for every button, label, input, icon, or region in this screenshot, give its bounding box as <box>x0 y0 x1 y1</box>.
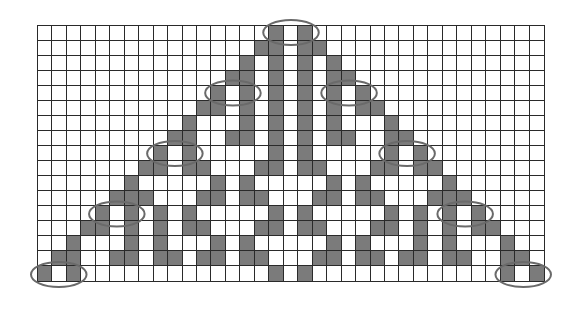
empty-cell <box>255 236 269 251</box>
filled-cell <box>154 251 168 266</box>
empty-cell <box>385 56 399 71</box>
empty-cell <box>183 191 197 206</box>
filled-cell <box>298 71 312 86</box>
empty-cell <box>81 206 95 221</box>
empty-cell <box>38 176 52 191</box>
empty-cell <box>52 71 66 86</box>
empty-cell <box>356 41 370 56</box>
filled-cell <box>183 161 197 176</box>
empty-cell <box>168 56 182 71</box>
empty-cell <box>110 56 124 71</box>
empty-cell <box>486 266 500 281</box>
filled-cell <box>313 41 327 56</box>
empty-cell <box>255 206 269 221</box>
empty-cell <box>211 41 225 56</box>
empty-cell <box>168 146 182 161</box>
filled-cell <box>269 26 283 41</box>
empty-cell <box>515 26 529 41</box>
filled-cell <box>327 176 341 191</box>
filled-cell <box>81 221 95 236</box>
filled-cell <box>139 191 153 206</box>
empty-cell <box>67 101 81 116</box>
empty-cell <box>52 266 66 281</box>
empty-cell <box>284 176 298 191</box>
empty-cell <box>67 56 81 71</box>
empty-cell <box>515 161 529 176</box>
empty-cell <box>428 251 442 266</box>
empty-cell <box>255 56 269 71</box>
filled-cell <box>125 221 139 236</box>
empty-cell <box>226 266 240 281</box>
empty-cell <box>284 161 298 176</box>
empty-cell <box>67 146 81 161</box>
empty-cell <box>211 26 225 41</box>
filled-cell <box>168 251 182 266</box>
empty-cell <box>52 86 66 101</box>
empty-cell <box>110 101 124 116</box>
filled-cell <box>472 206 486 221</box>
filled-cell <box>414 236 428 251</box>
empty-cell <box>327 221 341 236</box>
filled-cell <box>255 191 269 206</box>
empty-cell <box>168 116 182 131</box>
empty-cell <box>52 41 66 56</box>
filled-cell <box>313 221 327 236</box>
empty-cell <box>67 116 81 131</box>
empty-cell <box>443 161 457 176</box>
empty-cell <box>530 131 544 146</box>
filled-cell <box>298 56 312 71</box>
empty-cell <box>457 206 471 221</box>
empty-cell <box>342 236 356 251</box>
empty-cell <box>183 86 197 101</box>
empty-cell <box>472 131 486 146</box>
empty-cell <box>226 161 240 176</box>
filled-cell <box>298 131 312 146</box>
filled-cell <box>154 221 168 236</box>
empty-cell <box>530 176 544 191</box>
empty-cell <box>530 101 544 116</box>
empty-cell <box>414 71 428 86</box>
empty-cell <box>399 221 413 236</box>
empty-cell <box>139 251 153 266</box>
empty-cell <box>284 41 298 56</box>
empty-cell <box>501 176 515 191</box>
filled-cell <box>255 251 269 266</box>
empty-cell <box>313 131 327 146</box>
empty-cell <box>211 146 225 161</box>
empty-cell <box>457 116 471 131</box>
empty-cell <box>284 206 298 221</box>
empty-cell <box>96 161 110 176</box>
empty-cell <box>385 251 399 266</box>
empty-cell <box>240 206 254 221</box>
empty-cell <box>81 56 95 71</box>
filled-cell <box>240 131 254 146</box>
empty-cell <box>501 221 515 236</box>
filled-cell <box>501 251 515 266</box>
empty-cell <box>110 206 124 221</box>
empty-cell <box>313 236 327 251</box>
empty-cell <box>81 41 95 56</box>
empty-cell <box>67 191 81 206</box>
filled-cell <box>371 101 385 116</box>
empty-cell <box>96 266 110 281</box>
empty-cell <box>125 41 139 56</box>
empty-cell <box>154 116 168 131</box>
empty-cell <box>96 131 110 146</box>
empty-cell <box>501 101 515 116</box>
filled-cell <box>96 206 110 221</box>
empty-cell <box>226 146 240 161</box>
empty-cell <box>385 101 399 116</box>
empty-cell <box>486 236 500 251</box>
empty-cell <box>486 191 500 206</box>
filled-cell <box>240 116 254 131</box>
empty-cell <box>183 101 197 116</box>
filled-cell <box>443 251 457 266</box>
filled-cell <box>501 266 515 281</box>
empty-cell <box>125 161 139 176</box>
filled-cell <box>385 131 399 146</box>
empty-cell <box>443 86 457 101</box>
filled-cell <box>255 161 269 176</box>
filled-cell <box>472 221 486 236</box>
empty-cell <box>67 221 81 236</box>
empty-cell <box>385 176 399 191</box>
